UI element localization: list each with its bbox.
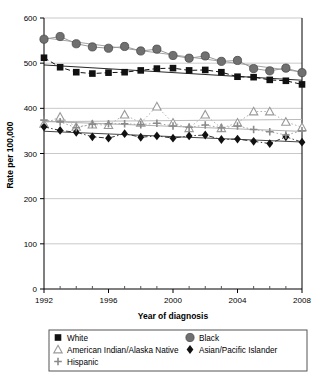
data-point-marker [57,64,64,71]
data-point-marker [250,74,257,81]
y-tick-label-200: 200 [24,195,38,204]
y-tick-label-0: 0 [33,285,38,294]
x-tick-label-2008: 2008 [293,296,311,305]
legend-label-hispanic: Hispanic [67,358,98,367]
data-series-layer [40,32,306,148]
data-point-marker [234,73,241,80]
data-point-marker [57,126,64,135]
data-point-marker [170,134,177,143]
data-point-marker [41,54,48,61]
data-point-marker [153,131,160,140]
x-tick-label-2000: 2000 [164,296,182,305]
legend-label-asian-pacific-islander: Asian/Pacific Islander [199,346,278,355]
data-point-marker [89,70,96,77]
data-point-marker [137,133,144,142]
data-point-marker [154,65,161,72]
x-tick-label-1992: 1992 [35,296,53,305]
data-point-marker [201,110,209,118]
data-point-marker [282,64,290,72]
data-point-marker [137,67,144,74]
data-point-marker [282,118,290,126]
data-point-marker [233,56,241,64]
data-point-marker [153,45,161,53]
x-tick-label-1996: 1996 [100,296,118,305]
data-point-marker [298,69,306,77]
data-point-marker [105,134,112,143]
x-axis-title: Year of diagnosis [138,311,209,321]
data-point-marker [283,77,290,84]
data-point-marker [202,67,209,74]
data-point-marker [201,52,209,60]
data-point-marker [121,69,128,76]
data-point-marker [153,102,161,110]
data-point-marker [121,129,128,138]
data-point-marker [266,67,274,75]
y-tick-label-500: 500 [24,59,38,68]
chart-legend: WhiteAmerican Indian/Alaska NativeHispan… [49,330,307,371]
x-tick-label-2004: 2004 [229,296,247,305]
data-point-marker [105,69,112,76]
data-point-marker [218,69,225,76]
y-tick-label-300: 300 [24,150,38,159]
data-point-marker [250,64,258,72]
data-point-marker [72,40,80,48]
data-point-marker [120,110,128,118]
data-point-marker [169,51,177,59]
data-point-marker [170,65,177,72]
data-point-marker [299,138,306,147]
data-point-marker [266,128,274,136]
data-point-marker [88,43,96,51]
data-point-marker [299,81,306,88]
legend-label-american-indian-alaska-native: American Indian/Alaska Native [67,346,179,355]
data-point-marker [40,116,48,124]
data-point-marker [73,69,80,76]
data-point-marker [250,126,258,134]
data-point-marker [234,135,241,144]
data-point-marker [186,131,193,140]
data-point-marker [56,32,64,40]
data-point-marker [217,57,225,65]
legend-label-white: White [67,334,88,343]
chart-figure: 0100200300400500600 19921996200020042008… [0,0,316,375]
data-point-marker [137,47,145,55]
data-point-marker [104,44,112,52]
y-tick-label-400: 400 [24,104,38,113]
y-axis-title: Rate per 100,000 [5,121,15,188]
data-point-marker [266,77,273,84]
data-point-marker [40,35,48,43]
legend-label-black: Black [199,334,220,343]
y-tick-label-600: 600 [24,14,38,23]
data-point-marker [186,333,194,341]
data-point-marker [250,137,257,146]
data-point-marker [185,54,193,62]
data-point-marker [218,135,225,144]
data-point-marker [186,67,193,74]
y-tick-label-100: 100 [24,240,38,249]
data-point-marker [55,334,62,341]
rate-trend-line-chart: 0100200300400500600 19921996200020042008… [0,0,316,375]
data-point-marker [121,42,129,50]
y-axis-tick-labels: 0100200300400500600 [24,14,38,294]
x-axis-tick-labels: 19921996200020042008 [35,296,311,305]
